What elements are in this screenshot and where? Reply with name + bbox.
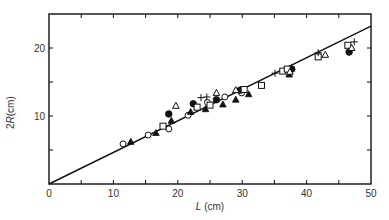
x-axis-label: L (cm): [196, 201, 224, 212]
plus-marker: [197, 94, 204, 101]
filled-circle-marker: [165, 111, 172, 118]
open-square-marker: [160, 123, 166, 129]
filled-circle-marker: [213, 96, 220, 103]
open-square-marker: [259, 82, 265, 88]
y-tick-label: 20: [34, 43, 46, 54]
plot-border: [49, 14, 371, 184]
open-circle-marker: [166, 126, 172, 132]
x-tick-label: 40: [301, 188, 313, 199]
data-points: [120, 38, 358, 147]
open-square-marker: [241, 86, 247, 92]
plot-frame: [49, 14, 371, 184]
x-tick-label: 20: [172, 188, 184, 199]
filled-triangle-marker: [220, 101, 227, 107]
filled-triangle-marker: [232, 96, 239, 102]
y-axis-label: 2R(cm): [5, 96, 16, 129]
x-tick-label: 30: [237, 188, 249, 199]
open-square-marker: [207, 102, 213, 108]
x-tick-label: 50: [365, 188, 377, 199]
open-square-marker: [194, 104, 200, 110]
filled-triangle-marker: [127, 138, 134, 144]
y-tick-label: 10: [34, 111, 46, 122]
x-tick-label: 0: [46, 188, 52, 199]
plus-marker: [272, 70, 279, 77]
scatter-chart: 010203040501020 L (cm) 2R(cm): [0, 0, 389, 220]
open-triangle-marker: [213, 89, 220, 95]
open-triangle-marker: [173, 102, 180, 108]
x-tick-label: 10: [108, 188, 120, 199]
open-circle-marker: [145, 132, 151, 138]
filled-triangle-marker: [187, 108, 194, 114]
open-circle-marker: [222, 94, 228, 100]
open-triangle-marker: [322, 51, 329, 57]
axis-ticks: [49, 14, 371, 184]
open-circle-marker: [120, 141, 126, 147]
axis-tick-labels: 010203040501020: [34, 43, 377, 200]
filled-triangle-marker: [168, 117, 175, 123]
